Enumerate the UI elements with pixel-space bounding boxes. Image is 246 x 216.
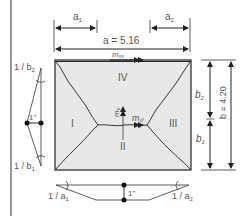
yield-line-diagram: a1 a2 a = 5.16 mxs mxf my IV I III II b2… xyxy=(0,0,246,216)
dimension-a1 xyxy=(54,20,97,52)
label-b1: b1 xyxy=(196,133,205,145)
label-inv-a1: 1 / a1 xyxy=(48,191,70,202)
dimension-a2 xyxy=(150,18,190,52)
bottom-profile-dot-bottom xyxy=(122,198,127,203)
region-iv-label: IV xyxy=(118,72,128,83)
label-unit-bottom: 1" xyxy=(128,189,135,198)
label-b-total: b = 4.20 xyxy=(218,86,228,119)
label-inv-b2: 1 / b2 xyxy=(14,62,36,73)
label-a1: a1 xyxy=(73,11,83,23)
bottom-profile-dot-top xyxy=(122,183,127,188)
label-inv-a2: 1 / a2 xyxy=(172,191,194,202)
label-b2: b2 xyxy=(195,89,205,101)
label-a2: a2 xyxy=(165,11,175,23)
label-a-total: a = 5.16 xyxy=(103,35,140,46)
label-mxs: mxs xyxy=(112,50,124,59)
left-profile-dot-inner xyxy=(39,121,44,126)
region-ii-label: II xyxy=(120,141,126,152)
region-iii-label: III xyxy=(169,118,177,129)
label-inv-b1: 1 / b1 xyxy=(14,161,36,172)
label-unit-left: 1" xyxy=(29,113,36,122)
region-i-label: I xyxy=(71,118,74,129)
